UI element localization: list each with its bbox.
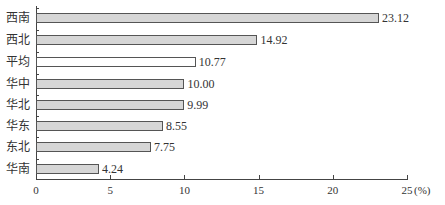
x-axis <box>36 179 408 180</box>
x-tick-label: 0 <box>33 184 39 196</box>
x-tick-label: 15 <box>253 184 264 196</box>
x-axis-unit-label: (%) <box>414 184 431 196</box>
y-tick <box>36 95 39 96</box>
value-label: 8.55 <box>166 120 187 132</box>
bar <box>36 57 196 67</box>
x-tick-label: 20 <box>327 184 338 196</box>
value-label: 14.92 <box>260 34 287 46</box>
category-label: 华南 <box>6 162 34 176</box>
bar <box>36 121 163 131</box>
category-label: 华东 <box>6 119 34 133</box>
category-label: 东北 <box>6 140 34 154</box>
bar <box>36 35 257 45</box>
value-label: 7.75 <box>154 141 175 153</box>
value-label: 23.12 <box>382 12 409 24</box>
y-axis <box>36 6 37 180</box>
x-tick <box>110 175 111 179</box>
category-label: 西南 <box>6 11 34 25</box>
bar <box>36 164 99 174</box>
y-tick <box>36 52 39 53</box>
x-tick-label: 25 <box>402 184 413 196</box>
bar <box>36 13 379 23</box>
y-tick <box>36 159 39 160</box>
horizontal-bar-chart: 西南23.12西北14.92平均10.77华中10.00华北9.99华东8.55… <box>0 0 445 205</box>
value-label: 10.00 <box>187 78 214 90</box>
category-label: 平均 <box>6 55 34 69</box>
x-tick-label: 5 <box>107 184 113 196</box>
bar <box>36 79 184 89</box>
y-tick <box>36 74 39 75</box>
y-tick <box>36 116 39 117</box>
category-label: 华中 <box>6 77 34 91</box>
value-label: 10.77 <box>199 56 226 68</box>
category-label: 华北 <box>6 98 34 112</box>
x-tick <box>333 175 334 179</box>
y-tick <box>36 8 39 9</box>
value-label: 4.24 <box>102 163 123 175</box>
x-tick-label: 10 <box>179 184 190 196</box>
x-tick <box>184 175 185 179</box>
y-tick <box>36 30 39 31</box>
x-tick <box>259 175 260 179</box>
category-label: 西北 <box>6 33 34 47</box>
x-tick <box>407 175 408 179</box>
y-tick <box>36 137 39 138</box>
bar <box>36 142 151 152</box>
bar <box>36 100 184 110</box>
value-label: 9.99 <box>187 99 208 111</box>
